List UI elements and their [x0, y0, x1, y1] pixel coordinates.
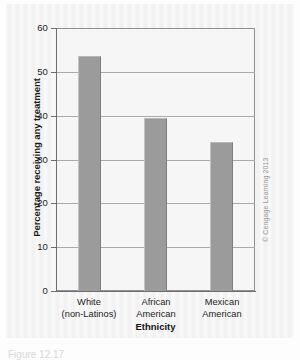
y-tick-label: 60 — [37, 23, 48, 33]
figure-caption-fragment: Figure 12.17 — [8, 349, 64, 360]
x-category-label-line: Mexican — [172, 297, 272, 309]
x-category-label-line: American — [172, 309, 272, 321]
bar — [210, 142, 233, 291]
y-tick-label: 0 — [43, 286, 48, 296]
x-axis-line — [56, 291, 256, 292]
figure-container: 0102030405060 White(non-Latinos)AfricanA… — [0, 0, 300, 360]
copyright-credit: © Cengage Learning 2013 — [262, 157, 269, 242]
bar — [144, 118, 167, 291]
y-axis-title: Percentage receiving any treatment — [31, 58, 42, 258]
x-axis-title: Ethnicity — [56, 321, 255, 332]
y-axis-line — [56, 28, 57, 292]
x-category-label: MexicanAmerican — [172, 297, 272, 320]
bar — [78, 56, 101, 291]
